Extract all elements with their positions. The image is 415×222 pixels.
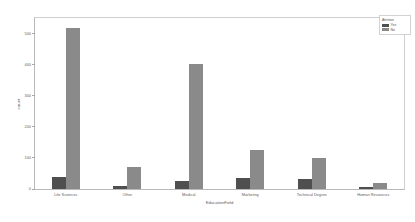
bar[interactable] [236, 178, 250, 189]
y-tick-label: 0 [29, 186, 31, 192]
x-tick-label: Other [122, 192, 132, 197]
bar-chart: count 0100200300400500 Life SciencesOthe… [0, 0, 415, 222]
y-tick-label: 300 [25, 93, 32, 99]
legend-label: No [391, 28, 395, 32]
x-tick-label: Human Resources [357, 192, 389, 197]
y-tick-label: 100 [25, 155, 32, 161]
bar[interactable] [359, 187, 373, 189]
x-tick-label: Marketing [242, 192, 259, 197]
legend-swatch [382, 28, 389, 31]
bar[interactable] [52, 177, 66, 189]
bar-group [220, 18, 282, 189]
bar[interactable] [298, 179, 312, 189]
legend-entry[interactable]: No [382, 28, 408, 32]
bar[interactable] [66, 28, 80, 189]
bar-group [281, 18, 343, 189]
legend-entry[interactable]: Yes [382, 23, 408, 27]
plot-area: count 0100200300400500 [34, 17, 405, 190]
legend-title: Attrition [382, 18, 408, 22]
bar-group [35, 18, 97, 189]
x-tick-label: Life Sciences [54, 192, 77, 197]
bar[interactable] [189, 64, 203, 189]
bar[interactable] [250, 150, 264, 189]
legend: Attrition YesNo [379, 15, 411, 35]
legend-swatch [382, 24, 389, 27]
legend-entries: YesNo [382, 23, 408, 32]
y-tick-label: 500 [25, 31, 32, 37]
bar[interactable] [175, 181, 189, 189]
bars-layer [35, 18, 404, 189]
bar-group [343, 18, 405, 189]
bar[interactable] [373, 183, 387, 189]
bar[interactable] [113, 186, 127, 189]
bar-group [158, 18, 220, 189]
x-tick-label: Medical [182, 192, 195, 197]
bar[interactable] [127, 167, 141, 189]
x-axis-title: EducationField [34, 200, 405, 205]
y-axis-title: count [16, 98, 21, 109]
legend-label: Yes [391, 23, 397, 27]
y-tick-label: 200 [25, 124, 32, 130]
bar-group [97, 18, 159, 189]
x-tick-label: Technical Degree [297, 192, 327, 197]
y-tick-label: 400 [25, 62, 32, 68]
bar[interactable] [312, 158, 326, 189]
